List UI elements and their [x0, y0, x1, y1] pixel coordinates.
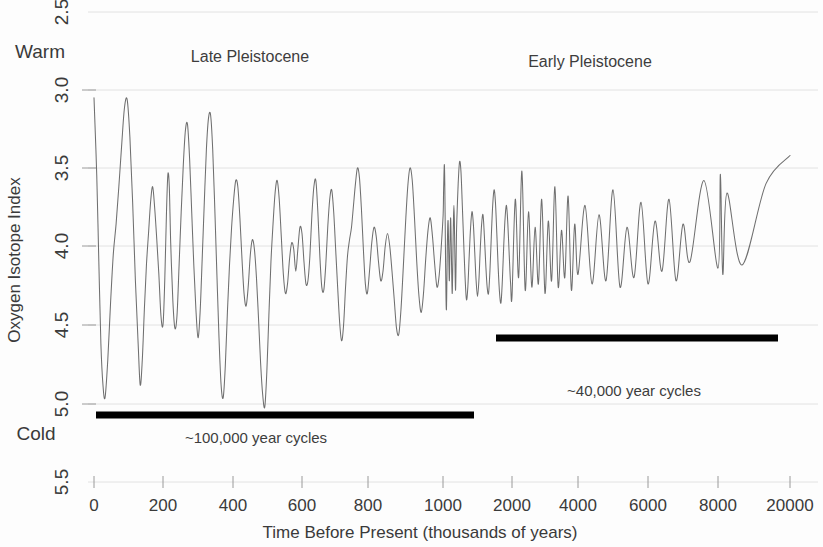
warm-label: Warm — [15, 41, 65, 62]
annotation-cycles-100k: ~100,000 year cycles — [185, 429, 327, 446]
cold-label: Cold — [16, 423, 55, 444]
y-tick-label-4.0: 4.0 — [51, 233, 72, 259]
tickmarks-group — [82, 90, 96, 404]
x-tick-label-400: 400 — [219, 496, 247, 515]
x-tick-labels-group: 02004006008001000200040006000800020000 — [89, 496, 813, 515]
x-tick-label-20000: 20000 — [766, 496, 813, 515]
isotope-curve — [94, 98, 790, 408]
annotation-early-pleistocene: Early Pleistocene — [528, 53, 652, 70]
x-tick-label-0: 0 — [89, 496, 98, 515]
x-tick-label-4000: 4000 — [559, 496, 597, 515]
y-tick-label-5.5: 5.5 — [51, 469, 72, 495]
y-tick-labels-group: 2.53.03.54.04.55.05.5 — [51, 0, 72, 495]
y-tick-label-2.5: 2.5 — [51, 0, 72, 25]
event-bars-group — [96, 335, 778, 419]
x-tick-label-200: 200 — [149, 496, 177, 515]
x-tick-label-800: 800 — [354, 496, 382, 515]
y-tick-label-4.5: 4.5 — [51, 312, 72, 338]
figure-container: 2.53.03.54.04.55.05.5 020040060080010002… — [0, 0, 823, 547]
x-tick-label-8000: 8000 — [699, 496, 737, 515]
annotation-late-pleistocene: Late Pleistocene — [191, 48, 309, 65]
oxygen-isotope-chart: 2.53.03.54.04.55.05.5 020040060080010002… — [0, 0, 823, 547]
x-tick-label-6000: 6000 — [629, 496, 667, 515]
x-tick-label-2000: 2000 — [493, 496, 531, 515]
y-axis-title: Oxygen Isotope Index — [5, 177, 24, 343]
x-tick-label-1000: 1000 — [424, 496, 462, 515]
x-tick-label-600: 600 — [288, 496, 316, 515]
bar-40k-cycles — [496, 335, 778, 342]
y-tick-label-3.5: 3.5 — [51, 155, 72, 181]
x-axis-title: Time Before Present (thousands of years) — [263, 523, 578, 542]
y-tick-label-3.0: 3.0 — [51, 77, 72, 103]
annotation-cycles-40k: ~40,000 year cycles — [567, 382, 701, 399]
bar-100k-cycles — [96, 412, 474, 419]
y-tick-label-5.0: 5.0 — [51, 391, 72, 417]
